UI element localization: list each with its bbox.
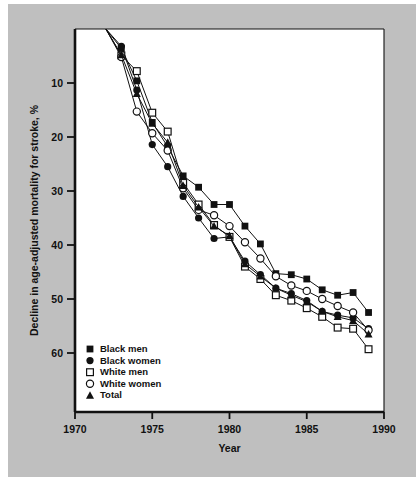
stroke-mortality-line-chart: 10203040506019701975198019851990YearDecl…: [0, 0, 416, 477]
data-point: [350, 289, 357, 296]
data-point: [365, 309, 372, 316]
data-point: [118, 43, 125, 50]
legend-label: Black women: [100, 355, 161, 366]
data-point: [210, 235, 217, 242]
legend-label: White women: [100, 378, 161, 389]
x-axis-ticks: 19701975198019851990: [63, 412, 396, 435]
legend-label: Total: [100, 389, 122, 400]
x-tick-label: 1980: [218, 423, 242, 435]
data-point: [350, 309, 357, 316]
data-point: [164, 163, 171, 170]
data-point: [303, 305, 310, 312]
data-point: [195, 214, 202, 221]
data-point: [288, 282, 295, 289]
legend-marker: [86, 357, 93, 364]
data-point: [303, 276, 310, 283]
data-point: [180, 193, 187, 200]
data-point: [334, 324, 341, 331]
y-tick-label: 30: [51, 185, 63, 197]
x-axis-title: Year: [218, 442, 240, 454]
data-point: [164, 128, 171, 135]
legend-label: Black men: [100, 343, 148, 354]
y-tick-label: 10: [51, 77, 63, 89]
data-point: [303, 287, 310, 294]
data-point: [149, 109, 156, 116]
data-point: [288, 271, 295, 278]
y-tick-label: 60: [51, 347, 63, 359]
x-tick-label: 1975: [141, 423, 165, 435]
data-point: [257, 255, 264, 262]
legend-label: White men: [100, 366, 148, 377]
data-point: [242, 223, 249, 230]
figure-panel: 10203040506019701975198019851990YearDecl…: [0, 0, 416, 477]
data-point: [241, 239, 248, 246]
x-tick-label: 1970: [63, 423, 87, 435]
y-tick-label: 50: [51, 293, 63, 305]
y-tick-label: 20: [51, 131, 63, 143]
data-point: [272, 273, 279, 280]
data-point: [334, 302, 341, 309]
data-point: [149, 130, 156, 137]
y-tick-label: 40: [51, 239, 63, 251]
data-point: [334, 292, 341, 299]
data-point: [210, 212, 217, 219]
data-point: [133, 68, 140, 75]
data-point: [350, 325, 357, 332]
data-point: [365, 346, 372, 353]
legend-marker: [86, 380, 93, 387]
data-point: [272, 292, 279, 299]
data-point: [226, 201, 233, 208]
data-point: [211, 201, 218, 208]
data-point: [149, 141, 156, 148]
y-axis-title: Decline in age-adjusted mortality for st…: [28, 104, 40, 336]
data-point: [257, 241, 264, 248]
x-tick-label: 1985: [295, 423, 319, 435]
x-tick-label: 1990: [372, 423, 396, 435]
data-point: [319, 286, 326, 293]
y-axis-ticks: 102030405060: [51, 77, 75, 359]
data-point: [133, 108, 140, 115]
data-point: [195, 184, 202, 191]
data-point: [319, 295, 326, 302]
chart-container: 10203040506019701975198019851990YearDecl…: [0, 0, 416, 477]
legend-marker: [87, 369, 94, 376]
data-point: [226, 223, 233, 230]
legend-marker: [87, 346, 94, 353]
